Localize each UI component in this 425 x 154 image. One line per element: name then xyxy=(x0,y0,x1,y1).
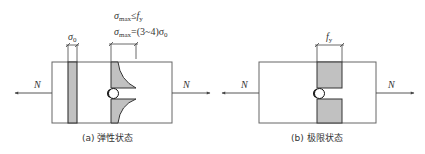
panel-elastic-state: N N σ0 σmax≤fy σmax=(3~4) xyxy=(15,10,210,143)
sigma-max-dimension xyxy=(109,42,138,62)
fy-dimension xyxy=(315,43,344,62)
stress-concentration-bottom xyxy=(111,99,136,123)
stress-distribution-diagram: N N σ0 σmax≤fy σmax=(3~4) xyxy=(0,0,425,154)
yield-stress-block-top xyxy=(317,62,342,88)
hole-a xyxy=(109,89,119,99)
panel-limit-state: N N fy (b) 极限状态 xyxy=(222,31,414,143)
hole-b xyxy=(315,89,325,99)
sigma-max-limit-eq: σmax≤fy xyxy=(114,10,143,23)
sigma-max-ratio-eq: σmax=(3~4)σ0 xyxy=(114,26,168,39)
fy-label: fy xyxy=(326,31,333,44)
force-label-right-b: N xyxy=(387,79,396,90)
yield-stress-block-bottom xyxy=(317,99,342,123)
force-label-right-a: N xyxy=(182,79,191,90)
sigma0-label: σ0 xyxy=(68,31,77,44)
force-label-left-a: N xyxy=(33,79,42,90)
sigma0-dimension xyxy=(66,43,79,62)
force-label-left-b: N xyxy=(240,79,249,90)
uniform-stress-band xyxy=(68,62,77,123)
caption-b: (b) 极限状态 xyxy=(291,132,343,143)
caption-a: (a) 弹性状态 xyxy=(82,132,133,143)
stress-concentration-top xyxy=(111,62,136,88)
